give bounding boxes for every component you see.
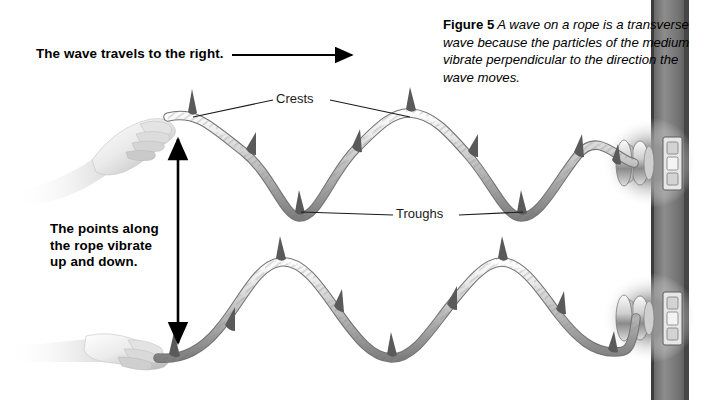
label-wave-travels-right: The wave travels to the right. (36, 46, 224, 63)
rope-marker (276, 236, 286, 261)
label-crests: Crests (276, 91, 314, 106)
rope-marker (498, 236, 508, 261)
label-points-vibrate: The points along the rope vibrate up and… (50, 221, 230, 271)
rope-marker (188, 89, 197, 115)
rope-marker (517, 190, 527, 215)
figure-caption-label: Figure 5 (443, 17, 494, 32)
top-rope-panel (14, 87, 698, 217)
hand-holding-rope-bottom (8, 334, 169, 370)
rope-marker (387, 332, 397, 357)
rope-marker (406, 87, 416, 112)
light-switch-plate-bottom[interactable] (663, 292, 682, 345)
rope-marker (556, 291, 566, 314)
rope-marker (352, 129, 362, 152)
light-switch-plate-top[interactable] (663, 137, 682, 190)
hand-holding-rope-top (14, 118, 176, 206)
rope-markers-top (188, 87, 621, 215)
rope-marker (574, 134, 584, 157)
figure-illustration: The wave travels to the right. The point… (0, 0, 721, 400)
figure-caption: Figure 5A wave on a rope is a transverse… (443, 16, 693, 86)
rope-wave-top (168, 113, 634, 217)
rope-marker (295, 190, 305, 215)
label-troughs: Troughs (396, 206, 443, 221)
